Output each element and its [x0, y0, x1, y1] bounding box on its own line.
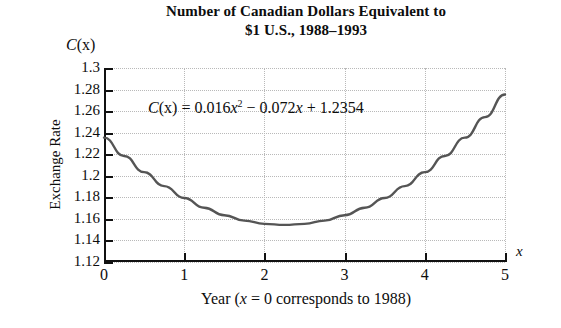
y-axis-tick-label: 1.26: [40, 103, 100, 118]
y-axis-tick-label: 1.28: [40, 82, 100, 97]
y-axis-symbol-arg: (x): [77, 36, 96, 53]
y-axis-symbol-var: C: [66, 36, 77, 53]
x-axis-title: Year (x = 0 corresponds to 1988): [104, 290, 508, 308]
x-axis-tick-label: 2: [244, 266, 284, 284]
gridline-vertical: [505, 68, 506, 262]
x-axis-title-var: x: [240, 290, 247, 307]
page-title: Number of Canadian Dollars Equivalent to…: [104, 2, 508, 40]
y-axis-symbol-label: C(x): [66, 36, 95, 54]
x-axis-tick-label: 3: [325, 266, 365, 284]
y-axis-tick-label: 1.22: [40, 146, 100, 161]
chart-title-line-2: $1 U.S., 1988–1993: [104, 21, 508, 40]
equation-term2-var: x: [296, 100, 303, 117]
equation-annotation: C(x) = 0.016x2 − 0.072x + 1.2354: [148, 98, 364, 117]
y-axis-tick-label: 1.18: [40, 189, 100, 204]
y-axis-tick-labels: 1.121.141.161.181.21.221.241.261.281.3: [38, 68, 100, 262]
y-axis-tick-label: 1.24: [40, 125, 100, 140]
y-axis-tick-label: 1.14: [40, 232, 100, 247]
equation-op1: − 0.072: [243, 100, 296, 117]
y-axis-tick-label: 1.2: [40, 168, 100, 183]
x-axis-tick-label: 0: [84, 266, 124, 284]
equation-op2: + 1.2354: [303, 100, 364, 117]
equation-term1-var: x: [230, 100, 237, 117]
equation-lhs-arg: (x): [159, 100, 178, 117]
equation-lhs-var: C: [148, 100, 159, 117]
y-axis-tick-label: 1.3: [40, 60, 100, 75]
y-axis-tick-label: 1.16: [40, 211, 100, 226]
x-axis-tick-label: 4: [405, 266, 445, 284]
curve-svg: [104, 68, 505, 262]
x-axis-title-suffix: = 0 corresponds to 1988): [247, 290, 411, 307]
x-axis-tick-label: 1: [164, 266, 204, 284]
x-axis-title-prefix: Year (: [201, 290, 240, 307]
y-axis-tick: [104, 262, 113, 264]
x-axis-tick: [505, 253, 507, 262]
chart-title-line-1: Number of Canadian Dollars Equivalent to: [166, 3, 446, 19]
x-axis-tick-label: 5: [485, 266, 525, 284]
plot-area: C(x) = 0.016x2 − 0.072x + 1.2354: [104, 68, 505, 262]
x-axis-symbol-label: x: [516, 243, 523, 260]
equation-eq: = 0.016: [177, 100, 230, 117]
x-axis-tick-labels: 012345: [104, 262, 505, 288]
